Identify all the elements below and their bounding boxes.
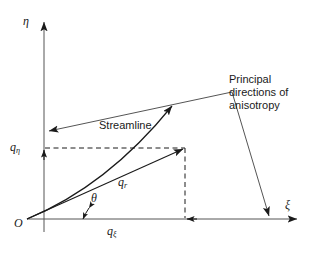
- principal-directions-line-3: anisotropy: [229, 99, 288, 112]
- q-eta-label: qη: [10, 140, 20, 156]
- anisotropy-diagram: η ξ O qη qξ qr θ Streamline Principal di…: [0, 0, 311, 256]
- principal-directions-label: Principal directions of anisotropy: [229, 73, 288, 112]
- principal-directions-line-1: Principal: [229, 73, 288, 86]
- diagram-canvas: [0, 0, 311, 256]
- xi-axis-label: ξ: [285, 198, 290, 212]
- projection-dashed-lines: [45, 148, 185, 218]
- theta-angle-label: θ: [91, 191, 97, 205]
- principal-directions-line-2: directions of: [229, 86, 288, 99]
- q-r-label: qr: [118, 175, 127, 191]
- q-eta-subscript: η: [16, 146, 20, 155]
- streamline-label: Streamline: [99, 119, 152, 132]
- eta-axis-label: η: [23, 14, 29, 28]
- q-r-subscript: r: [124, 181, 127, 190]
- theta-angle-arc: [83, 208, 89, 219]
- q-xi-subscript: ξ: [113, 230, 117, 239]
- q-xi-label: qξ: [107, 224, 117, 240]
- origin-label: O: [14, 216, 23, 230]
